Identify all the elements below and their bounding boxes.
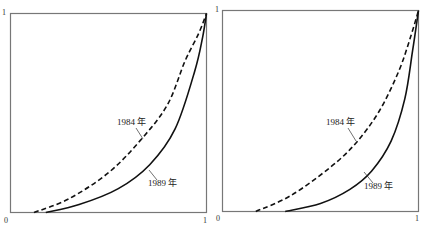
curve-1989 (285, 11, 418, 212)
plot-area (214, 0, 428, 232)
chart-panel-left: 1 0 1 1984 年 1989 年 (0, 0, 214, 232)
chart-panel-right: 1 0 1 1984 年 1989 年 (214, 0, 428, 232)
y-tick-1: 1 (2, 9, 6, 17)
series-label-1989: 1989 年 (364, 182, 393, 191)
series-label-1989: 1989 年 (148, 179, 177, 188)
x-tick-0: 0 (4, 217, 8, 225)
plot-area (0, 0, 214, 232)
x-tick-0: 0 (216, 215, 220, 223)
leader-line-1984 (348, 128, 356, 141)
leader-line-1984 (136, 128, 143, 139)
y-tick-1: 1 (215, 6, 219, 14)
curve-1984 (34, 14, 207, 213)
curve-1984 (256, 11, 419, 212)
series-label-1984: 1984 年 (117, 118, 146, 127)
x-tick-1: 1 (415, 215, 419, 223)
series-label-1984: 1984 年 (326, 118, 355, 127)
curve-1989 (46, 14, 207, 213)
x-tick-1: 1 (203, 217, 207, 225)
